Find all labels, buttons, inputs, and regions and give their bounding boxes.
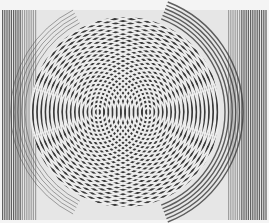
moire-pattern	[0, 0, 269, 223]
moire-photo	[0, 0, 269, 223]
